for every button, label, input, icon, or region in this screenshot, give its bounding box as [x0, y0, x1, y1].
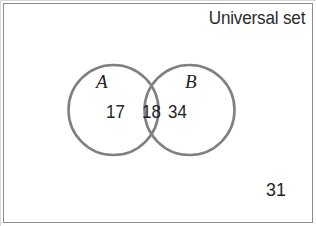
set-a-only-count: 17 [106, 103, 125, 121]
set-b-only-count: 34 [168, 103, 187, 121]
outside-sets-count: 31 [266, 181, 286, 199]
set-b-label: B [185, 72, 197, 91]
set-a-label: A [96, 72, 108, 91]
intersection-count: 18 [142, 103, 161, 121]
venn-diagram-figure: Universal set A B 17 18 34 31 [0, 0, 316, 226]
